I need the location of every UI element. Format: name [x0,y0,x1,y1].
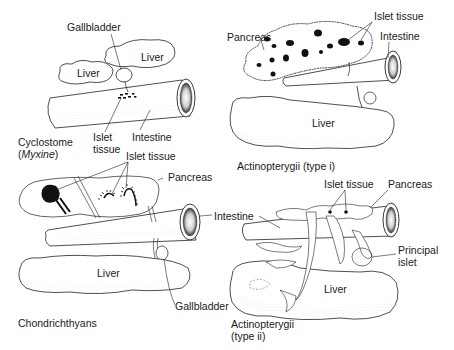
label-liver: Liver [97,267,120,279]
intestine-shape [48,79,195,128]
gallbladder-shape [156,246,168,260]
gallbladder-shape [116,68,132,82]
panel-actinopterygii-type-ii [230,190,399,320]
label-gallbladder: Gallbladder [67,21,121,33]
islet-tissue-dot [328,210,332,214]
label-pancreas: Pancreas [388,178,432,190]
label-liver: Liver [312,117,335,129]
caption-actinopterygii-type-i: Actinopterygii (type i) [237,160,335,172]
panel-cyclostome [48,34,195,132]
islet-tissue-dot [344,210,348,214]
liver-right-shape [105,40,175,68]
label-gallbladder: Gallbladder [175,300,229,312]
pancreas-anatomy-diagram [0,0,454,350]
caption-chondrichthyans: Chondrichthyans [18,317,97,329]
label-islet-tissue: Islet tissue [93,131,120,155]
label-liver-left: Liver [77,67,100,79]
label-islet-tissue: Islet tissue [324,178,374,190]
label-islet-tissue: Islet tissue [126,150,176,162]
label-intestine: Intestine [214,210,254,222]
label-liver-right: Liver [141,51,164,63]
panel-chondrichthyans [19,162,212,305]
caption-cyclostome: Cyclostome (Myxine) [18,136,73,160]
caption-actinopterygii-type-ii: Actinopterygii (type ii) [231,318,294,342]
label-liver: Liver [324,283,347,295]
label-intestine: Intestine [132,131,172,143]
label-intestine: Intestine [380,30,420,42]
principal-islet-shape [352,248,372,266]
label-pancreas: Pancreas [168,171,212,183]
label-islet-tissue: Islet tissue [374,10,424,22]
label-pancreas: Pancreas [227,31,271,43]
label-principal-islet: Principal islet [398,244,438,268]
